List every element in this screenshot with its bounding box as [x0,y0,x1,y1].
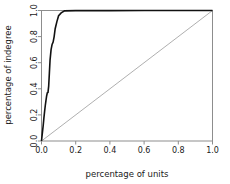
y-tick-label: 0.0 [30,135,39,148]
x-tick-label: 0.4 [104,146,117,155]
y-tick-label: 0.2 [30,109,39,122]
y-tick-label: 0.6 [30,56,39,69]
y-axis-title: percentage of indegree [3,25,13,125]
x-tick-label: 0.8 [172,146,185,155]
x-tick-label: 1.0 [206,146,219,155]
chart-panel: 0.00.20.40.60.81.0 0.00.20.40.60.81.0 pe… [0,0,230,184]
x-tick-label: 0.6 [138,146,151,155]
x-axis-title: percentage of units [86,169,169,179]
x-tick-label: 0.2 [69,146,82,155]
y-tick-label: 0.4 [30,82,39,95]
lorenz-curve-chart: 0.00.20.40.60.81.0 0.00.20.40.60.81.0 pe… [0,0,230,184]
y-tick-label: 1.0 [30,4,39,17]
y-tick-label: 0.8 [30,30,39,43]
